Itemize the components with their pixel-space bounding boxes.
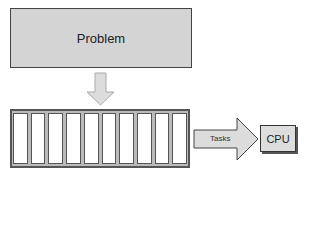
queue-cell [119,113,134,164]
queue-cell [137,113,152,164]
cpu-label: CPU [266,133,289,145]
task-queue [10,109,190,168]
queue-cell [31,113,46,164]
queue-cell [48,113,63,164]
queue-cell [172,113,187,164]
queue-cell [66,113,81,164]
tasks-label: Tasks [210,134,230,143]
queue-cell [13,113,28,164]
queue-cell [102,113,117,164]
queue-cell [155,113,170,164]
down-arrow-icon [87,73,114,105]
queue-cell [84,113,99,164]
cpu-box: CPU [260,125,296,152]
